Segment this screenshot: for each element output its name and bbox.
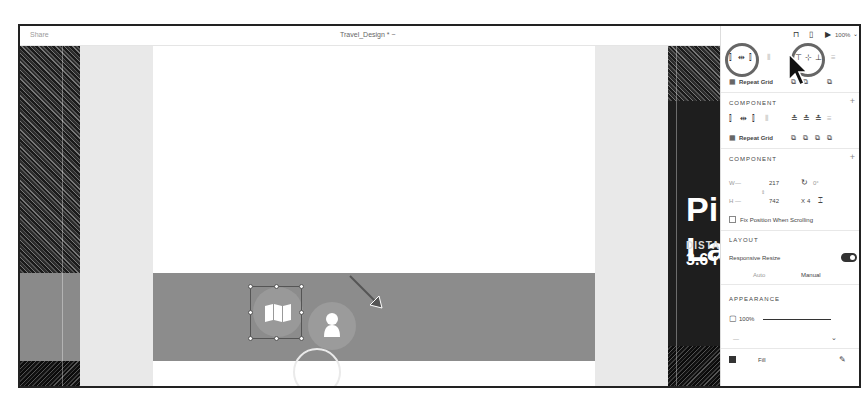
resize-handle[interactable]: [299, 310, 304, 315]
divider: [721, 148, 861, 149]
pasteboard: [80, 46, 153, 388]
rotate-icon: ↻: [801, 178, 808, 187]
user-icon[interactable]: [323, 312, 341, 338]
boolean-intersect-icon[interactable]: ⧉: [815, 134, 820, 142]
align-bottom-icon[interactable]: ≛: [815, 114, 822, 123]
align-right-icon[interactable]: ⫿: [749, 53, 752, 63]
title-bar: Share Travel_Design * ~: [20, 26, 720, 46]
grass-photo: [20, 46, 80, 273]
align-center-h-icon[interactable]: ⇹: [738, 53, 745, 62]
boolean-subtract-icon[interactable]: ⧉: [803, 134, 808, 142]
distribute-v-icon[interactable]: ≡: [827, 114, 832, 123]
right-artboard-partial: Pi La DISTA 3.6 r: [668, 46, 720, 388]
share-menu[interactable]: Share: [30, 31, 49, 38]
divider: [721, 348, 861, 349]
chevron-down-icon[interactable]: ⌄: [831, 334, 837, 342]
opacity-input[interactable]: 100%: [739, 316, 754, 322]
width-field-dash: —: [735, 180, 741, 186]
layout-guide: [62, 46, 63, 388]
resize-auto-option[interactable]: Auto: [753, 272, 765, 278]
eyedropper-icon[interactable]: ✎: [839, 355, 846, 364]
zoom-level[interactable]: 100%: [835, 32, 850, 38]
device-preview-icon[interactable]: ▯: [809, 30, 813, 39]
add-component-icon[interactable]: +: [850, 152, 855, 162]
play-icon[interactable]: ▶: [825, 30, 831, 39]
chevron-down-icon[interactable]: ⌄: [853, 30, 858, 37]
fix-position-label: Fix Position When Scrolling: [740, 217, 813, 223]
divider: [721, 92, 861, 93]
artboard-main[interactable]: [153, 46, 595, 388]
resize-manual-option[interactable]: Manual: [801, 272, 821, 278]
distance-label: DISTA: [686, 240, 720, 251]
repeat-grid-icon[interactable]: ▦: [729, 78, 736, 86]
repeat-grid-button[interactable]: Repeat Grid: [739, 135, 773, 141]
x-label: X: [801, 198, 805, 204]
layout-section-label: LAYOUT: [729, 237, 759, 243]
distribute-h-icon[interactable]: ⦀: [765, 114, 769, 124]
share-link-icon[interactable]: ⊓: [793, 30, 799, 39]
fill-checkbox[interactable]: [729, 356, 736, 363]
document-title[interactable]: Travel_Design * ~: [340, 31, 396, 38]
resize-handle[interactable]: [248, 284, 253, 289]
responsive-resize-label: Responsive Resize: [729, 255, 780, 261]
x-input[interactable]: 4: [807, 198, 810, 204]
boolean-add-icon[interactable]: ⧉: [791, 134, 796, 142]
left-artboard-partial: [20, 46, 80, 388]
layout-guide: [676, 46, 677, 388]
nav-band: [20, 273, 80, 361]
app-window: Share Travel_Design * ~: [18, 24, 861, 388]
home-button-outline[interactable]: [293, 348, 341, 388]
repeat-grid-button[interactable]: Repeat Grid: [739, 79, 773, 85]
align-top-icon[interactable]: ≛: [791, 114, 798, 123]
callout-arrow-icon: [348, 274, 388, 314]
appearance-section-label: APPEARANCE: [729, 296, 780, 302]
height-label: H: [729, 198, 733, 204]
pasteboard: [595, 46, 668, 388]
opacity-icon: ▢: [729, 314, 737, 323]
align-bottom-icon[interactable]: ⊥: [815, 53, 822, 62]
resize-handle[interactable]: [299, 284, 304, 289]
design-canvas[interactable]: Pi La DISTA 3.6 r: [20, 46, 720, 388]
align-middle-icon[interactable]: ≛: [803, 114, 810, 123]
component-section-label: COMPONENT: [729, 156, 777, 162]
lock-aspect-icon[interactable]: ⌶: [818, 196, 823, 206]
boolean-exclude-icon[interactable]: ⧉: [827, 78, 832, 86]
distribute-h-icon[interactable]: ⦀: [767, 53, 771, 63]
fill-label: Fill: [758, 357, 766, 363]
link-icon[interactable]: ⇕: [761, 189, 765, 195]
repeat-grid-icon[interactable]: ▦: [729, 134, 736, 142]
add-component-icon[interactable]: +: [850, 96, 855, 106]
resize-handle[interactable]: [274, 336, 279, 341]
align-center-h-icon[interactable]: ⇹: [740, 114, 747, 123]
height-input[interactable]: 742: [769, 198, 779, 204]
resize-handle[interactable]: [299, 336, 304, 341]
distance-value: 3.6 r: [686, 251, 719, 269]
blend-mode-select[interactable]: —: [733, 336, 739, 342]
resize-handle[interactable]: [248, 336, 253, 341]
align-left-icon[interactable]: ⫿: [729, 53, 732, 63]
resize-handle[interactable]: [248, 310, 253, 315]
fix-position-checkbox[interactable]: [729, 216, 736, 223]
align-right-icon[interactable]: ⫿: [752, 114, 755, 124]
selection-box[interactable]: [250, 286, 302, 339]
boolean-exclude-icon[interactable]: ⧉: [827, 134, 832, 142]
resize-handle[interactable]: [274, 284, 279, 289]
divider: [721, 284, 861, 285]
opacity-slider[interactable]: [763, 319, 831, 320]
height-field-dash: —: [735, 198, 741, 204]
grass-photo-bottom: [20, 361, 80, 388]
rotation-input[interactable]: 0°: [813, 180, 819, 186]
responsive-resize-toggle[interactable]: [841, 253, 857, 262]
width-input[interactable]: 217: [769, 180, 779, 186]
mouse-cursor-icon: [785, 52, 815, 88]
divider: [721, 230, 861, 231]
width-label: W: [729, 180, 735, 186]
align-left-icon[interactable]: ⫿: [729, 114, 732, 124]
component-section-label: COMPONENT: [729, 100, 777, 106]
distribute-v-icon[interactable]: ≡: [831, 53, 836, 62]
